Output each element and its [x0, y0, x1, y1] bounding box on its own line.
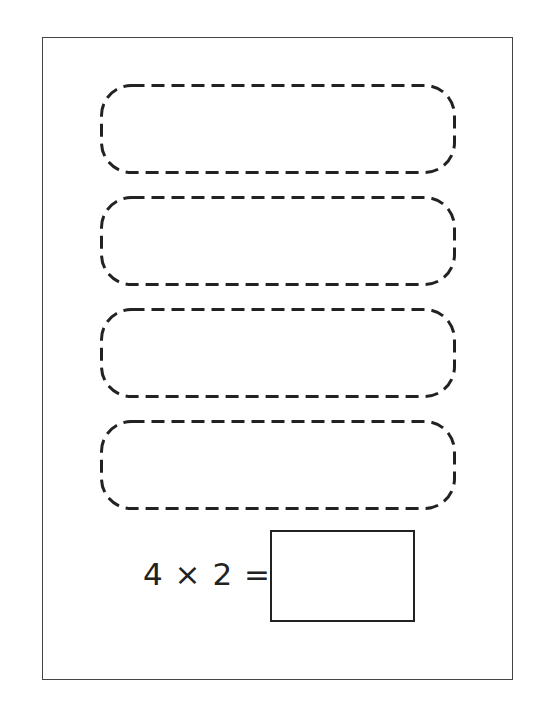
- group-box-3[interactable]: [100, 308, 456, 398]
- group-box-2[interactable]: [100, 196, 456, 286]
- dashed-rounded-rect: [100, 420, 456, 510]
- answer-box[interactable]: [270, 530, 415, 622]
- dashed-rounded-rect: [100, 84, 456, 174]
- dashed-rounded-rect: [100, 308, 456, 398]
- dashed-rounded-rect: [100, 196, 456, 286]
- multiplication-equation: 4 × 2 =: [143, 556, 271, 592]
- group-box-4[interactable]: [100, 420, 456, 510]
- group-box-1[interactable]: [100, 84, 456, 174]
